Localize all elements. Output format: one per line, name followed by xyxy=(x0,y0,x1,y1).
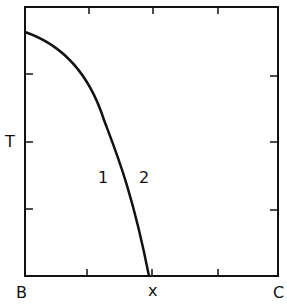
y-axis-label: T xyxy=(5,134,15,150)
region-label-1: 1 xyxy=(98,170,108,186)
x-axis-left-label: B xyxy=(16,285,27,301)
phase-boundary-curve xyxy=(25,32,149,276)
diagram-plot xyxy=(0,0,287,305)
plot-frame xyxy=(25,7,278,276)
tick-marks xyxy=(25,7,278,276)
x-marker-label: x xyxy=(148,283,157,299)
region-label-2: 2 xyxy=(139,170,149,186)
x-axis-right-label: C xyxy=(273,285,284,301)
phase-diagram: T B x C 1 2 xyxy=(0,0,287,305)
